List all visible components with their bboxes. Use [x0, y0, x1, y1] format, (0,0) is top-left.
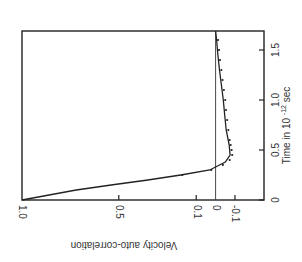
simulation-dot [231, 149, 233, 151]
axis-ticks [119, 50, 264, 200]
simulation-dot [230, 144, 232, 146]
time-tick-label: 1.0 [270, 93, 281, 107]
simulation-dot [227, 129, 229, 131]
simulation-dot [219, 59, 221, 61]
corr-tick-label: 1.0 [17, 205, 28, 219]
theory-curve [22, 31, 230, 200]
simulation-dot [226, 119, 228, 121]
plot-frame [22, 31, 264, 200]
corr-tick-label: -0.1 [230, 205, 241, 223]
simulation-dot [220, 69, 222, 71]
corr-tick-label: 0 [211, 205, 222, 211]
simulation-dot [217, 39, 219, 41]
simulation-dot [223, 89, 225, 91]
simulation-dot [231, 154, 233, 156]
time-tick-label: 0.5 [270, 143, 281, 157]
corr-tick-label: 0.5 [114, 205, 125, 219]
plot-border [22, 31, 264, 200]
simulation-dot [229, 139, 231, 141]
simulation-dot [229, 159, 231, 161]
tick-labels: 00.51.01.51.00.50.10-0.1 [17, 43, 281, 223]
simulation-dot [221, 79, 223, 81]
simulation-dot [218, 49, 220, 51]
time-tick-label: 1.5 [270, 43, 281, 57]
corr-tick-label: 0.1 [192, 205, 203, 219]
simulation-dot [181, 174, 183, 176]
simulation-dot [210, 169, 212, 171]
simulation-dot [224, 99, 226, 101]
x-axis-title: Time in 10 -12 sec [280, 87, 292, 165]
simulation-dot [225, 109, 227, 111]
simulation-dot [222, 164, 224, 166]
time-tick-label: 0 [270, 197, 281, 203]
y-axis-title: Velocity auto-correlation [71, 240, 178, 251]
chart-canvas: 00.51.01.51.00.50.10-0.1 Time in 10 -12 … [0, 0, 302, 262]
data-series [22, 31, 233, 200]
